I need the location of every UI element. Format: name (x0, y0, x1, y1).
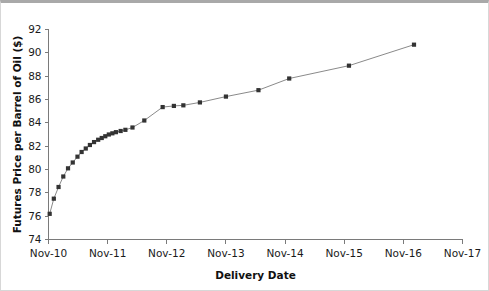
x-tick-label: Nov-14 (266, 247, 304, 259)
data-point-marker (130, 125, 134, 129)
x-tick-label: Nov-11 (89, 247, 126, 259)
data-point-marker (52, 197, 56, 201)
x-tick-label: Nov-13 (207, 247, 244, 259)
y-tick-label: 84 (28, 116, 42, 128)
data-point-marker (287, 76, 291, 80)
series-markers-oil-futures (48, 43, 417, 216)
data-point-marker (84, 146, 88, 150)
y-axis-title: Futures Price per Barrel of Oil ($) (11, 36, 23, 234)
data-point-marker (88, 143, 92, 147)
data-point-marker (347, 64, 351, 68)
data-point-marker (224, 94, 228, 98)
y-tick-label: 86 (28, 93, 42, 105)
data-point-marker (48, 212, 52, 216)
data-point-marker (71, 160, 75, 164)
series-line-oil-futures (50, 45, 414, 214)
chart-frame: 74767880828486889092 Nov-10Nov-11Nov-12N… (0, 0, 489, 291)
data-point-marker (172, 104, 176, 108)
data-point-marker (198, 100, 202, 104)
data-point-marker (56, 185, 60, 189)
x-tick-label: Nov-17 (444, 247, 481, 259)
x-tick-label: Nov-10 (30, 247, 67, 259)
y-tick-label: 76 (28, 210, 42, 222)
x-axis-title: Delivery Date (215, 269, 296, 281)
data-point-marker (80, 150, 84, 154)
chart-svg: 74767880828486889092 Nov-10Nov-11Nov-12N… (1, 3, 489, 291)
x-tick-label: Nov-12 (148, 247, 185, 259)
data-point-marker (123, 128, 127, 132)
data-point-marker (66, 166, 70, 170)
data-point-marker (92, 140, 96, 144)
data-point-marker (114, 130, 118, 134)
y-tick-label: 88 (28, 70, 41, 82)
y-axis-ticks: 74767880828486889092 (28, 23, 48, 245)
data-point-marker (75, 155, 79, 159)
y-tick-label: 80 (28, 163, 41, 175)
data-point-marker (119, 129, 123, 133)
data-point-marker (412, 43, 416, 47)
data-point-marker (256, 88, 260, 92)
y-tick-label: 78 (28, 186, 41, 198)
x-axis-ticks: Nov-10Nov-11Nov-12Nov-13Nov-14Nov-15Nov-… (30, 240, 481, 259)
data-point-marker (142, 118, 146, 122)
oil-futures-chart: 74767880828486889092 Nov-10Nov-11Nov-12N… (1, 3, 489, 291)
x-tick-label: Nov-15 (326, 247, 363, 259)
data-point-marker (181, 103, 185, 107)
y-tick-label: 82 (28, 140, 41, 152)
y-tick-label: 90 (28, 46, 41, 58)
data-point-marker (61, 174, 65, 178)
y-tick-label: 74 (28, 233, 42, 245)
data-point-marker (161, 105, 165, 109)
y-tick-label: 92 (28, 23, 41, 35)
x-tick-label: Nov-16 (385, 247, 423, 259)
